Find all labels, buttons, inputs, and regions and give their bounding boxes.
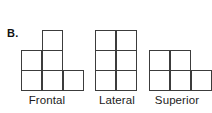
grid-cell — [21, 50, 42, 71]
grid-cell — [95, 70, 116, 91]
grid-cell — [21, 70, 42, 91]
grid-cell — [42, 50, 63, 71]
grid-cell — [42, 70, 63, 91]
grid-cell — [170, 70, 191, 91]
orthographic-projection-figure: B. Frontal Lateral Superior — [0, 0, 212, 113]
grid-cell — [149, 70, 170, 91]
view-lateral-label: Lateral — [92, 93, 142, 107]
grid-cell — [116, 70, 137, 91]
view-superior: Superior — [142, 0, 212, 113]
grid-cell — [116, 30, 137, 51]
frontal-grid — [0, 0, 92, 92]
superior-grid — [142, 0, 212, 92]
grid-cell — [42, 30, 63, 51]
grid-cell — [149, 50, 170, 71]
view-frontal-label: Frontal — [1, 93, 93, 107]
view-frontal: Frontal — [0, 0, 92, 113]
grid-cell — [95, 30, 116, 51]
grid-cell — [170, 50, 191, 71]
view-lateral: Lateral — [92, 0, 142, 113]
grid-cell — [95, 50, 116, 71]
grid-cell — [116, 50, 137, 71]
grid-cell — [63, 70, 84, 91]
grid-cell — [191, 70, 212, 91]
lateral-grid — [92, 0, 142, 92]
view-superior-label: Superior — [142, 93, 212, 107]
